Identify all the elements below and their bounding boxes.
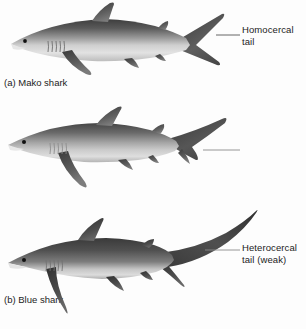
- thresher-pelvic-fin: [106, 276, 124, 291]
- blue-dorsal-fin: [96, 107, 122, 127]
- thresher-dorsal-fin: [78, 218, 104, 241]
- thresher-shark-eye: [22, 258, 26, 262]
- thresher-caudal-upper-lobe: [160, 210, 258, 267]
- caption-mako-shark: (a) Mako shark: [4, 77, 67, 89]
- panel-thresher-shark: Heterocercal tail (strong) (c) Thresher …: [0, 205, 306, 329]
- blue-shark-eye: [22, 140, 26, 144]
- label-line-1: Homocercal: [242, 24, 294, 35]
- panel-blue-shark: Heterocercal tail (weak) (b) Blue shark: [0, 103, 306, 203]
- panel-mako-shark: Homocercal tail (a) Mako shark: [0, 0, 306, 100]
- shark-tail-figure: Homocercal tail (a) Mako shark: [0, 0, 306, 329]
- label-line-2: tail: [242, 36, 294, 48]
- mako-eye: [23, 39, 27, 43]
- mako-dorsal-fin: [92, 3, 114, 23]
- blue-shark-illustration: [0, 103, 306, 203]
- blue-caudal-fin: [168, 118, 226, 160]
- thresher-shark-illustration: [0, 205, 306, 329]
- label-homocercal-tail: Homocercal tail: [242, 24, 294, 47]
